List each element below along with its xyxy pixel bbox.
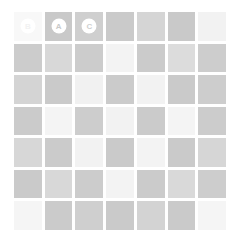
grid-cell[interactable] xyxy=(14,107,42,136)
grid-cell[interactable] xyxy=(75,44,103,73)
grid-cell[interactable] xyxy=(75,107,103,136)
grid-cell[interactable] xyxy=(137,201,165,230)
grid-cell[interactable] xyxy=(45,107,73,136)
grid-cell[interactable] xyxy=(198,138,226,167)
grid-cell[interactable] xyxy=(168,107,196,136)
grid-cell[interactable] xyxy=(106,75,134,104)
grid-cell[interactable] xyxy=(198,12,226,41)
grid-cell[interactable] xyxy=(137,12,165,41)
grid-cell[interactable] xyxy=(137,44,165,73)
grid-cell[interactable] xyxy=(14,138,42,167)
grid-cell[interactable] xyxy=(45,201,73,230)
grid-cell[interactable] xyxy=(75,201,103,230)
grid-cell[interactable] xyxy=(106,107,134,136)
grid-cell[interactable] xyxy=(45,75,73,104)
grid-cell[interactable] xyxy=(45,44,73,73)
marker-badge-a[interactable]: A xyxy=(51,19,66,34)
grid-cell[interactable] xyxy=(106,12,134,41)
grid-cell[interactable]: B xyxy=(14,12,42,41)
checkerboard-grid[interactable]: BAC xyxy=(14,12,226,230)
grid-cell[interactable] xyxy=(14,44,42,73)
grid-cell[interactable] xyxy=(14,201,42,230)
grid-cell[interactable] xyxy=(137,138,165,167)
grid-cell[interactable] xyxy=(14,75,42,104)
grid-cell[interactable] xyxy=(45,170,73,199)
grid-cell[interactable] xyxy=(198,44,226,73)
grid-cell[interactable] xyxy=(137,170,165,199)
grid-cell[interactable]: A xyxy=(45,12,73,41)
grid-cell[interactable] xyxy=(75,138,103,167)
grid-cell[interactable] xyxy=(14,170,42,199)
grid-cell[interactable] xyxy=(106,170,134,199)
grid-cell[interactable] xyxy=(75,75,103,104)
grid-cell[interactable] xyxy=(168,138,196,167)
grid-cell[interactable] xyxy=(198,75,226,104)
grid-cell[interactable] xyxy=(198,107,226,136)
grid-cell[interactable] xyxy=(168,12,196,41)
grid-cell[interactable] xyxy=(168,201,196,230)
grid-cell[interactable]: C xyxy=(75,12,103,41)
grid-cell[interactable] xyxy=(137,75,165,104)
marker-badge-b[interactable]: B xyxy=(20,19,35,34)
grid-cell[interactable] xyxy=(198,201,226,230)
grid-cell[interactable] xyxy=(106,138,134,167)
grid-cell[interactable] xyxy=(168,75,196,104)
grid-cell[interactable] xyxy=(198,170,226,199)
grid-cell[interactable] xyxy=(168,44,196,73)
grid-cell[interactable] xyxy=(168,170,196,199)
grid-cell[interactable] xyxy=(137,107,165,136)
grid-cell[interactable] xyxy=(106,44,134,73)
marker-badge-c[interactable]: C xyxy=(82,19,97,34)
grid-cell[interactable] xyxy=(106,201,134,230)
grid-cell[interactable] xyxy=(45,138,73,167)
grid-cell[interactable] xyxy=(75,170,103,199)
